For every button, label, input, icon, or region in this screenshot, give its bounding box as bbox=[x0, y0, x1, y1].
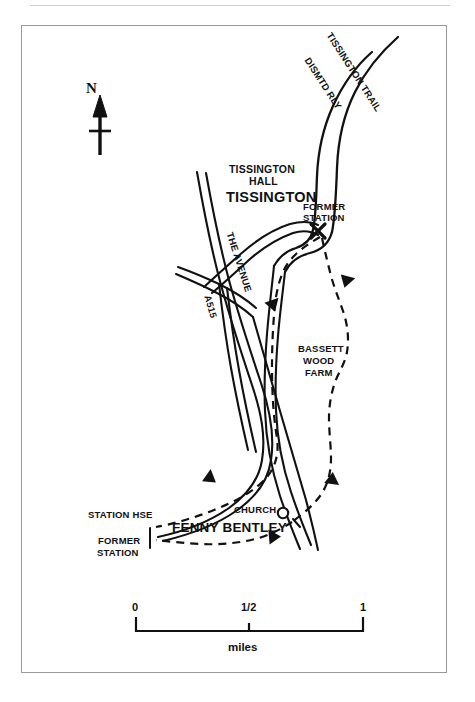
map-page: N TISSINGTON TRAIL DISMTD RLY TISSINGTON… bbox=[0, 0, 475, 702]
former-station-north-label-line2: STATION bbox=[303, 213, 345, 223]
scale-unit-label: miles bbox=[228, 641, 257, 653]
station-hse-label: STATION HSE bbox=[88, 510, 153, 520]
scale-label-start: 0 bbox=[132, 601, 138, 613]
former-station-south-label-line1: FORMER bbox=[98, 536, 140, 546]
scan-artifact-line bbox=[30, 5, 450, 6]
fenny-bentley-label: FENNY BENTLEY bbox=[172, 521, 287, 536]
scale-label-middle: 1/2 bbox=[241, 601, 256, 613]
bassett-wood-farm-label-line2: WOOD bbox=[303, 356, 334, 366]
church-label: CHURCH bbox=[234, 505, 276, 515]
former-station-north-label-line1: FORMER bbox=[303, 202, 345, 212]
tissington-hall-label-line2: HALL bbox=[249, 176, 278, 187]
former-station-south-label-line2: STATION bbox=[97, 548, 139, 558]
bassett-wood-farm-label-line3: FARM bbox=[305, 368, 333, 378]
north-label: N bbox=[86, 80, 97, 97]
bassett-wood-farm-label-line1: BASSETT bbox=[298, 344, 344, 354]
map-frame-border bbox=[21, 25, 447, 673]
tissington-hall-label-line1: TISSINGTON bbox=[229, 164, 295, 175]
scale-label-end: 1 bbox=[360, 601, 366, 613]
